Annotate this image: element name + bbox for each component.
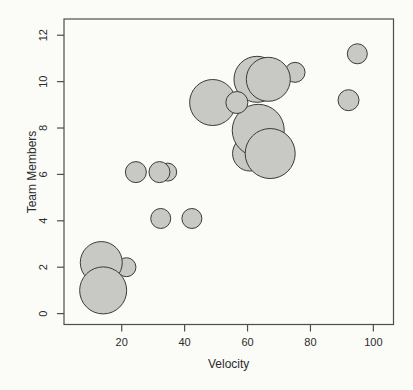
data-bubble [338, 90, 359, 111]
y-tick-label: 4 [37, 218, 49, 224]
bubble-chart: 20406080100 024681012 Velocity Team Memb… [0, 0, 413, 390]
y-tick-label: 0 [37, 311, 49, 317]
y-tick-label: 2 [37, 264, 49, 270]
data-bubble [80, 267, 127, 314]
x-tick-label: 40 [179, 336, 191, 348]
bubbles-group [80, 44, 368, 314]
y-tick-label: 12 [37, 29, 49, 41]
bubble-chart-figure: 20406080100 024681012 Velocity Team Memb… [0, 0, 413, 390]
x-tick-label: 60 [241, 336, 253, 348]
x-axis-ticks: 20406080100 [116, 325, 383, 348]
x-axis-label: Velocity [208, 357, 249, 371]
data-bubble [347, 44, 367, 64]
x-tick-label: 80 [304, 336, 316, 348]
y-axis-ticks: 024681012 [37, 29, 64, 317]
x-tick-label: 100 [364, 336, 382, 348]
y-tick-label: 8 [37, 125, 49, 131]
data-bubble [125, 162, 146, 183]
y-tick-label: 10 [37, 76, 49, 88]
data-bubble [226, 92, 248, 114]
y-axis-label: Team Members [25, 131, 39, 214]
data-bubble [246, 57, 290, 101]
data-bubble [245, 129, 295, 179]
data-bubble [149, 162, 170, 183]
data-bubble [182, 208, 202, 228]
x-tick-label: 20 [116, 336, 128, 348]
data-bubble [151, 208, 171, 228]
